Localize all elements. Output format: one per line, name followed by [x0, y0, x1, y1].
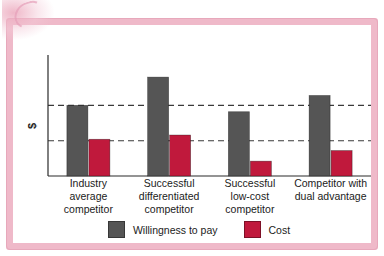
category-label-2: Successfullow-costcompetitor	[210, 177, 291, 216]
legend-item-1[interactable]: Cost	[244, 221, 291, 238]
category-label-line: Industry	[48, 177, 129, 190]
category-label-line: differentiated	[129, 190, 210, 203]
bar-wtp-3	[309, 95, 330, 176]
bar-cost-0	[89, 139, 110, 176]
bar-wtp-0	[67, 105, 88, 176]
legend-swatch-icon	[108, 221, 125, 238]
chart-legend: Willingness to payCost	[13, 221, 384, 238]
category-label-line: Successful	[210, 177, 291, 190]
bar-wtp-2	[228, 112, 249, 176]
category-label-line: competitor	[129, 203, 210, 216]
category-label-line: low-cost	[210, 190, 291, 203]
category-label-3: Competitor withdual advantage	[290, 177, 371, 216]
y-axis-label: $	[26, 123, 38, 129]
bar-cost-1	[170, 135, 191, 176]
bar-wtp-1	[148, 77, 169, 176]
bar-cost-2	[250, 161, 271, 176]
category-label-line: average	[48, 190, 129, 203]
category-label-line: dual advantage	[290, 190, 371, 203]
legend-item-0[interactable]: Willingness to pay	[108, 221, 218, 238]
category-label-0: Industryaveragecompetitor	[48, 177, 129, 216]
category-axis-labels: IndustryaveragecompetitorSuccessfuldiffe…	[48, 177, 371, 216]
category-label-1: Successfuldifferentiatedcompetitor	[129, 177, 210, 216]
chart-plot-area: $ IndustryaveragecompetitorSuccessfuldif…	[13, 25, 384, 256]
figure-frame: $ IndustryaveragecompetitorSuccessfuldif…	[6, 18, 378, 250]
legend-swatch-icon	[244, 221, 261, 238]
category-label-line: Successful	[129, 177, 210, 190]
category-label-line: Competitor with	[290, 177, 371, 190]
legend-label: Cost	[269, 224, 291, 236]
category-label-line: competitor	[48, 203, 129, 216]
category-label-line: competitor	[210, 203, 291, 216]
legend-label: Willingness to pay	[133, 224, 218, 236]
bar-cost-3	[331, 151, 352, 176]
clipped-title-remnant: willingness to pay	[0, 0, 384, 14]
